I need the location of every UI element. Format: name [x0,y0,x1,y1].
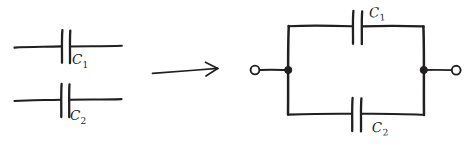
circuit-top-wire-left [288,26,352,27]
right-capacitor-2-label-letter: C [372,119,383,135]
right-capacitor-1-label-letter: C [368,4,379,21]
left-capacitor-1-lead-right [71,46,122,47]
parallel-capacitor-circuit [251,11,461,131]
arrow-head-upper [206,62,218,68]
right-capacitor-1-label-subscript: 1 [379,12,385,22]
arrow-shaft [153,68,218,73]
circuit-bottom-wire-right [362,114,424,115]
circuit-diagram-canvas [0,0,468,150]
junction-node-left [285,66,292,73]
left-capacitor-1-label: C1 [72,53,88,70]
right-capacitor-2-label-subscript: 2 [382,127,388,137]
circuit-top-wire-right [362,26,423,27]
left-capacitor-2-label: C2 [70,109,86,126]
left-capacitor-2-label-subscript: 2 [81,116,87,126]
circuit-bottom-wire-left [288,114,351,115]
left-capacitor-2-label-letter: C [70,107,81,123]
circuit-diagram-figure: C1 C2 C1 C2 [0,0,468,150]
left-capacitor-1-label-subscript: 1 [83,60,89,70]
right-capacitor-2-label: C2 [372,121,389,138]
terminal-left-ring [251,66,260,75]
transformation-arrow [153,62,218,76]
left-capacitor-2-lead-right [70,99,122,100]
left-capacitor-1-label-letter: C [72,51,83,67]
left-capacitor-2 [15,84,122,117]
right-capacitor-1-label: C1 [369,6,386,24]
junction-node-right [420,66,427,73]
left-capacitor-2-lead-left [15,100,61,101]
left-capacitor-1-lead-left [15,46,62,47]
left-capacitor-1 [15,30,122,63]
terminal-right-ring [452,66,461,75]
